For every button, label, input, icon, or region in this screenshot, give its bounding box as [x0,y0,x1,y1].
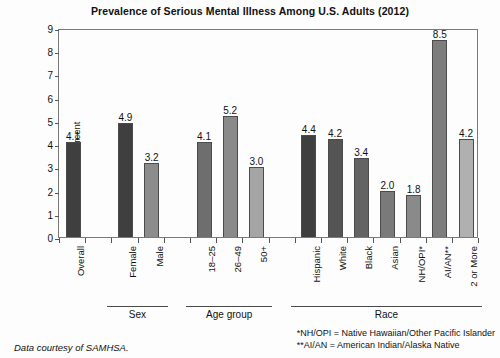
bar-black [354,158,369,237]
x-tick-mark [373,238,374,243]
y-tick-label: 6 [33,95,53,105]
bar-value-label: 4.2 [321,129,350,139]
x-axis-label: AI/AN** [443,246,453,278]
bar-white [328,139,343,237]
y-tick-mark [55,169,59,170]
group-bracket-line [107,306,167,307]
y-tick-mark [55,123,59,124]
bar-value-label: 4.4 [294,125,323,135]
y-tick-label: 0 [33,234,53,244]
bar-50 [249,167,264,237]
bar-value-label: 3.0 [242,157,271,167]
x-axis-label: 50+ [259,246,269,262]
bar-chart-figure: Prevalence of Serious Mental Illness Amo… [0,0,500,358]
y-tick-mark [55,53,59,54]
source-note: Data courtesy of SAMHSA. [14,342,129,353]
group-bracket-line [186,306,272,307]
x-tick-mark [426,238,427,243]
bar-value-label: 4.1 [59,132,88,142]
bar-value-label: 3.2 [137,153,166,163]
bar-2-or-more [459,139,474,237]
bar-overall [66,142,81,237]
y-tick-label: 4 [33,141,53,151]
chart-title: Prevalence of Serious Mental Illness Amo… [0,5,500,17]
x-tick-mark [452,238,453,243]
x-tick-mark [269,238,270,243]
y-tick-mark [55,193,59,194]
group-bracket-line [291,306,482,307]
x-tick-mark [400,238,401,243]
x-tick-mark [85,238,86,243]
bar-value-label: 5.2 [216,106,245,116]
x-axis-label: White [338,246,348,270]
x-tick-mark [478,238,479,243]
bar-nh-opi [406,195,421,237]
bar-value-label: 1.8 [399,185,428,195]
bar-18-25 [197,142,212,237]
bar-female [118,123,133,237]
y-tick-label: 5 [33,118,53,128]
bar-ai-an [432,40,447,237]
bar-26-49 [223,116,238,237]
y-tick-mark [55,100,59,101]
bar-value-label: 4.2 [452,129,481,139]
y-tick-label: 7 [33,71,53,81]
bar-hispanic [301,135,316,237]
y-tick-label: 8 [33,48,53,58]
x-tick-mark [242,238,243,243]
x-tick-mark [190,238,191,243]
y-tick-mark [55,30,59,31]
group-label-race: Race [291,309,482,320]
bar-value-label: 4.9 [111,113,140,123]
x-tick-mark [216,238,217,243]
x-axis-label: Hispanic [312,246,322,282]
group-label-sex: Sex [107,309,167,320]
x-axis-label: 18–25 [207,246,217,272]
y-tick-mark [55,76,59,77]
bar-value-label: 2.0 [373,181,402,191]
x-axis-label: 2 or More [469,246,479,287]
bar-male [144,163,159,237]
x-tick-mark [321,238,322,243]
x-axis-label: Male [155,246,165,267]
y-tick-label: 1 [33,211,53,221]
footnote-aian: **AI/AN = American Indian/Alaska Native [297,339,495,351]
x-tick-mark [295,238,296,243]
bar-value-label: 4.1 [190,132,219,142]
x-tick-mark [138,238,139,243]
x-axis-label: 26–49 [233,246,243,272]
y-tick-mark [55,216,59,217]
bar-value-label: 8.5 [425,30,454,40]
x-tick-mark [164,238,165,243]
y-tick-label: 2 [33,188,53,198]
x-axis-label: Overall [76,246,86,276]
x-axis-label: NH/OPI* [417,246,427,282]
y-tick-mark [55,146,59,147]
footnote-nhopi: *NH/OPI = Native Hawaiian/Other Pacific … [297,327,495,339]
x-tick-mark [111,238,112,243]
group-label-age-group: Age group [186,309,272,320]
x-axis-label: Black [364,246,374,269]
x-tick-mark [347,238,348,243]
y-tick-label: 3 [33,164,53,174]
bar-asian [380,191,395,237]
x-axis-label: Female [128,246,138,278]
x-tick-mark [59,238,60,243]
y-tick-label: 9 [33,25,53,35]
footnotes: *NH/OPI = Native Hawaiian/Other Pacific … [297,327,495,351]
plot-area: Percent 0123456789 4.14.93.24.15.23.04.4… [58,29,478,238]
x-axis-label: Asian [390,246,400,270]
bar-value-label: 3.4 [347,148,376,158]
